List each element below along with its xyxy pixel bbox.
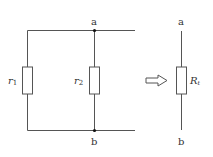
node-b-label: b — [91, 136, 97, 147]
right-circuit: a b Rt — [177, 16, 201, 147]
left-circuit: a b r1 r2 — [8, 16, 135, 147]
resistor-r2 — [90, 67, 100, 94]
right-node-a-label: a — [178, 16, 184, 27]
node-a-dot — [93, 29, 96, 32]
node-a-label: a — [91, 16, 97, 27]
circuit-diagram: a b r1 r2 a b Rt — [0, 0, 213, 157]
resistor-rt — [177, 67, 187, 94]
r2-label: r2 — [74, 75, 83, 87]
bottom-left-wire — [28, 94, 136, 131]
right-node-b-label: b — [178, 136, 184, 147]
resistor-r1 — [23, 67, 33, 94]
top-left-wire — [28, 31, 136, 68]
node-b-dot — [93, 129, 96, 132]
equivalence-arrow-icon — [146, 75, 167, 86]
rt-label: Rt — [189, 75, 201, 86]
r1-label: r1 — [8, 75, 17, 87]
